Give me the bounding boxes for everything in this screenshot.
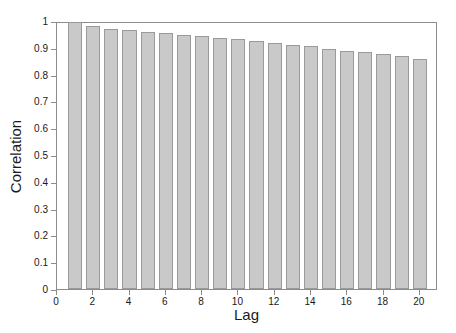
x-tick-mark: [92, 290, 93, 295]
x-tick-mark: [383, 290, 384, 295]
y-axis: 00.10.20.30.40.50.60.70.80.91: [0, 0, 56, 312]
y-tick-label: 0.2: [34, 231, 48, 241]
bar: [159, 33, 173, 289]
y-tick-label: 0.1: [34, 258, 48, 268]
x-tick-mark: [419, 290, 420, 295]
y-tick-label: 0.6: [34, 124, 48, 134]
y-tick-label: 1: [42, 17, 48, 27]
bar: [231, 39, 245, 289]
bar: [395, 56, 409, 289]
y-tick-label: 0.7: [34, 97, 48, 107]
x-axis-title: Lag: [56, 306, 437, 323]
x-tick-mark: [346, 290, 347, 295]
correlation-lag-bar-chart: Correlation 00.10.20.30.40.50.60.70.80.9…: [0, 0, 456, 333]
bar: [358, 52, 372, 289]
y-tick-label: 0.9: [34, 44, 48, 54]
x-tick-mark: [165, 290, 166, 295]
y-tick-label: 0.4: [34, 178, 48, 188]
y-tick-label: 0.5: [34, 151, 48, 161]
y-tick-label: 0.8: [34, 71, 48, 81]
bar: [177, 35, 191, 289]
x-tick-mark: [310, 290, 311, 295]
bar: [304, 46, 318, 289]
bar: [141, 32, 155, 289]
bar: [122, 30, 136, 289]
bar: [213, 38, 227, 289]
bar: [68, 22, 82, 289]
bar: [413, 59, 427, 289]
y-tick-label: 0: [42, 285, 48, 295]
bar: [104, 29, 118, 289]
bar: [376, 54, 390, 289]
bar-series: [57, 23, 436, 289]
x-tick-mark: [274, 290, 275, 295]
x-tick-mark: [56, 290, 57, 295]
bar: [249, 41, 263, 289]
y-tick-label: 0.3: [34, 205, 48, 215]
bar: [322, 49, 336, 289]
bar: [268, 43, 282, 289]
bar: [340, 51, 354, 289]
plot-area: [56, 22, 437, 290]
x-tick-mark: [237, 290, 238, 295]
x-tick-mark: [129, 290, 130, 295]
bar: [286, 45, 300, 289]
bar: [195, 36, 209, 289]
bar: [86, 26, 100, 289]
x-tick-mark: [201, 290, 202, 295]
